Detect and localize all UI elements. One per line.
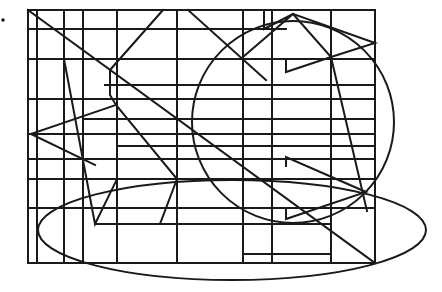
large-ellipse [38, 180, 426, 280]
diagonal-lines [28, 10, 375, 263]
stray-dot [1, 18, 5, 22]
horizontal-lines [28, 29, 375, 224]
geometric-figure [0, 0, 442, 292]
